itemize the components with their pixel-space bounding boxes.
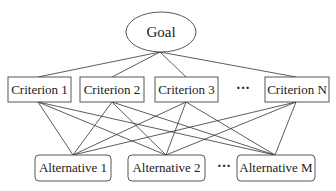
criterion-node-n: Criterion N <box>265 77 329 102</box>
alternatives-ellipsis: ··· <box>217 159 231 174</box>
criterion-label: Criterion N <box>267 82 327 97</box>
edge-goal-criterion-n <box>160 52 296 77</box>
criterion-label: Criterion 2 <box>84 82 141 97</box>
criterion-label: Criterion 3 <box>158 82 215 97</box>
alternative-label: Alternative 1 <box>39 160 107 175</box>
alternative-node-m: Alternative M <box>237 155 315 181</box>
criteria-ellipsis: ··· <box>236 81 250 96</box>
alternative-label: Alternative 2 <box>132 160 200 175</box>
criterion-node-3: Criterion 3 <box>155 77 218 102</box>
edge-goal-criterion-2 <box>112 52 160 77</box>
goal-label: Goal <box>146 24 175 40</box>
criterion-node-2: Criterion 2 <box>80 77 144 102</box>
alternative-node-1: Alternative 1 <box>35 155 111 181</box>
alternative-node-2: Alternative 2 <box>128 155 205 181</box>
criterion-label: Criterion 1 <box>11 82 68 97</box>
goal-edges <box>38 52 296 77</box>
alternative-label: Alternative M <box>239 160 313 175</box>
goal-node: Goal <box>126 12 196 52</box>
hierarchy-diagram: Goal Criterion 1 Criterion 2 Criterion 3… <box>0 0 336 191</box>
criteria-alternative-edges <box>38 102 296 155</box>
edge-goal-criterion-1 <box>38 52 160 77</box>
criterion-node-1: Criterion 1 <box>8 77 71 102</box>
